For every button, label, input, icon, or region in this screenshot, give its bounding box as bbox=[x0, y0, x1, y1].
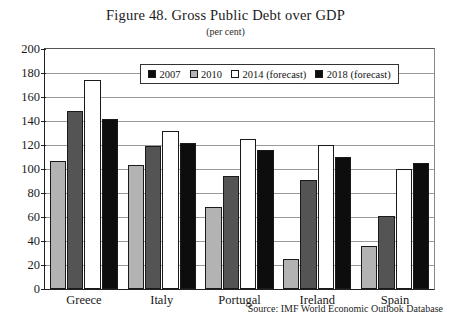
y-axis-tick-label: 140 bbox=[21, 114, 40, 129]
bar bbox=[283, 259, 299, 289]
bar bbox=[67, 111, 83, 289]
bar bbox=[318, 145, 334, 289]
bar bbox=[396, 169, 412, 289]
bar-group: Ireland bbox=[278, 49, 356, 289]
legend-swatch-icon bbox=[190, 70, 198, 78]
bar bbox=[300, 180, 316, 289]
bar bbox=[102, 119, 118, 289]
plot-area: 200180160140120100806040200 GreeceItalyP… bbox=[44, 48, 435, 290]
legend-item: 2014 (forecast) bbox=[231, 69, 306, 80]
y-axis-tick-label: 60 bbox=[28, 210, 41, 225]
legend-item: 2007 bbox=[148, 69, 181, 80]
bar bbox=[335, 157, 351, 289]
bar bbox=[162, 131, 178, 289]
bar bbox=[378, 216, 394, 289]
legend-swatch-icon bbox=[148, 70, 156, 78]
bar-group: Spain bbox=[356, 49, 434, 289]
bar bbox=[223, 176, 239, 289]
y-axis-tick-label: 200 bbox=[21, 42, 40, 57]
bar bbox=[50, 161, 66, 289]
bar bbox=[361, 246, 377, 289]
y-axis-tick-label: 80 bbox=[28, 186, 41, 201]
y-axis-tick-mark bbox=[41, 289, 46, 290]
chart-subtitle: (per cent) bbox=[0, 26, 451, 37]
legend-label: 2014 (forecast) bbox=[243, 69, 307, 80]
legend-swatch-icon bbox=[315, 70, 323, 78]
bar-group: Portugal bbox=[201, 49, 279, 289]
chart-title: Figure 48. Gross Public Debt over GDP bbox=[0, 7, 451, 24]
bar-group: Greece bbox=[45, 49, 123, 289]
y-axis-tick-label: 180 bbox=[21, 66, 40, 81]
bar-group: Italy bbox=[123, 49, 201, 289]
legend-item: 2018 (forecast) bbox=[315, 69, 390, 80]
bar bbox=[84, 80, 100, 289]
bar bbox=[257, 150, 273, 289]
y-axis-tick-label: 40 bbox=[28, 234, 41, 249]
legend-label: 2010 bbox=[201, 69, 222, 80]
bar bbox=[180, 143, 196, 289]
bar bbox=[413, 163, 429, 289]
y-axis-tick-label: 100 bbox=[21, 162, 40, 177]
legend-item: 2010 bbox=[190, 69, 223, 80]
legend-label: 2007 bbox=[160, 69, 181, 80]
y-axis-tick-label: 160 bbox=[21, 90, 40, 105]
figure-container: Figure 48. Gross Public Debt over GDP (p… bbox=[0, 0, 451, 324]
source-note: Source: IMF World Economic Outlook Datab… bbox=[248, 303, 443, 314]
legend-label: 2018 (forecast) bbox=[327, 69, 391, 80]
bar bbox=[128, 165, 144, 289]
bar bbox=[205, 207, 221, 289]
y-axis-tick-label: 20 bbox=[28, 258, 41, 273]
y-axis-tick-label: 120 bbox=[21, 138, 40, 153]
bar bbox=[240, 139, 256, 289]
chart-legend: 200720102014 (forecast)2018 (forecast) bbox=[140, 64, 399, 84]
bar bbox=[145, 146, 161, 289]
bar-groups: GreeceItalyPortugalIrelandSpain bbox=[45, 49, 434, 289]
legend-swatch-icon bbox=[231, 70, 239, 78]
